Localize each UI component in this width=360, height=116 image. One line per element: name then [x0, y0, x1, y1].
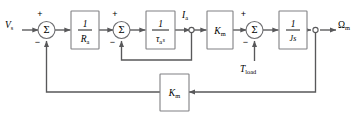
output-signal-symbol: Ω: [338, 20, 345, 30]
torque-constant-subscript: m: [221, 30, 226, 37]
current-signal-subscript: a: [185, 14, 188, 21]
time-constant-numerator: 1: [158, 19, 163, 29]
speed-takeoff-node[interactable]: [313, 27, 318, 32]
summing-junction-2-feedback-sign: −: [110, 37, 115, 47]
summing-junction-2-symbol: Σ: [118, 25, 124, 35]
summing-junction-1-symbol: Σ: [43, 25, 49, 35]
back-emf-subscript: m: [175, 92, 180, 99]
armature-resistance-numerator: 1: [83, 19, 88, 29]
summing-junction-1-feedback-sign: −: [35, 37, 40, 47]
output-signal-subscript: m: [345, 24, 350, 31]
block-diagram-root: 1 Ra 1 τas Km 1 Js Km Σ +: [0, 0, 360, 116]
current-signal-label: Ia: [181, 10, 188, 21]
load-torque-subscript: load: [245, 68, 257, 75]
inertia-denominator-suffix: s: [293, 34, 296, 43]
armature-resistance-denominator-subscript: a: [86, 38, 89, 45]
summing-junction-1-input-sign: +: [37, 9, 42, 19]
load-torque-label: Tload: [240, 64, 257, 75]
input-signal-label: Vs: [5, 20, 14, 31]
block-diagram-svg: 1 Ra 1 τas Km 1 Js Km Σ +: [0, 0, 360, 116]
input-signal-subscript: s: [11, 24, 14, 31]
inertia-numerator: 1: [291, 19, 296, 29]
summing-junction-2-input-sign: +: [112, 9, 117, 19]
summing-junction-3-feedback-sign: −: [243, 37, 248, 47]
summing-junction-3-symbol: Σ: [251, 25, 257, 35]
summing-junction-3-input-sign: +: [241, 9, 246, 19]
wire-feedback-block-to-sum1: [47, 41, 161, 92]
current-takeoff-node[interactable]: [189, 27, 194, 32]
inertia-denominator-group: Js: [290, 34, 297, 43]
output-signal-label: Ωm: [338, 20, 350, 31]
